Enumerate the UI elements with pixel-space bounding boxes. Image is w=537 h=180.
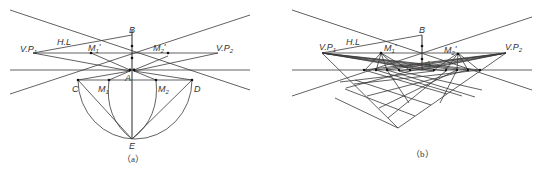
ground-point xyxy=(386,69,388,71)
point xyxy=(131,45,134,48)
ground-point xyxy=(409,69,411,71)
label-m1prime: M1' xyxy=(88,42,101,54)
label-a: A xyxy=(124,73,131,83)
point-a2 xyxy=(133,69,136,72)
label-vp1: V.P1 xyxy=(319,42,336,53)
ground-point xyxy=(398,69,400,71)
point-m1prime xyxy=(380,52,383,55)
label-hl: H.L xyxy=(346,37,360,47)
vp1-to-b xyxy=(33,35,132,53)
vp1-to-b xyxy=(322,35,422,53)
label-a: A xyxy=(424,59,431,69)
ground-point xyxy=(363,69,365,71)
label-m2prime: M2' xyxy=(153,42,166,54)
perspective-diagram: B V.P1 H.L M1' M2' V.P2 A C M1 M2 D E （a… xyxy=(0,0,537,180)
arc-m2-e xyxy=(132,80,157,139)
ground-point xyxy=(479,69,481,71)
a-to-c xyxy=(78,71,130,80)
label-m2prime: M2' xyxy=(444,44,457,56)
label-vp2: V.P2 xyxy=(216,43,234,54)
ground-point xyxy=(375,69,377,71)
label-e: E xyxy=(129,141,136,151)
label-b: B xyxy=(129,25,135,35)
caption-a: （a） xyxy=(122,154,144,164)
label-b: B xyxy=(419,25,425,35)
label-d: D xyxy=(194,84,201,94)
label-m1: M1 xyxy=(98,84,109,95)
ground-point xyxy=(467,69,469,71)
semicircle-cd xyxy=(78,80,192,139)
label-c: C xyxy=(72,84,79,94)
vp1-to-a xyxy=(33,53,130,71)
label-m2: M2 xyxy=(158,84,170,95)
point-m1 xyxy=(108,79,111,82)
label-vp2: V.P2 xyxy=(505,42,523,53)
point xyxy=(421,58,424,61)
arc-m1-e xyxy=(108,80,132,139)
label-hl: H.L xyxy=(57,37,71,47)
panel-b: B V.P1 H.L M1' M2' V.P2 A （b） xyxy=(292,10,532,159)
ground-point xyxy=(456,69,458,71)
point-a xyxy=(129,69,132,72)
point xyxy=(421,45,424,48)
point-m2prime xyxy=(457,53,460,56)
caption-b: （b） xyxy=(411,149,434,159)
point-m2 xyxy=(155,79,158,82)
label-vp1: V.P1 xyxy=(20,44,37,55)
ground-point xyxy=(433,69,435,71)
panel-a: B V.P1 H.L M1' M2' V.P2 A C M1 M2 D E （a… xyxy=(10,10,250,164)
m2prime-to-a xyxy=(134,56,168,70)
point-d xyxy=(191,79,194,82)
point-c xyxy=(77,79,80,82)
a-to-d xyxy=(134,71,192,80)
point-m2prime xyxy=(167,52,170,55)
label-m1prime: M1' xyxy=(384,42,397,54)
point xyxy=(131,57,134,60)
ground-point xyxy=(445,69,447,71)
